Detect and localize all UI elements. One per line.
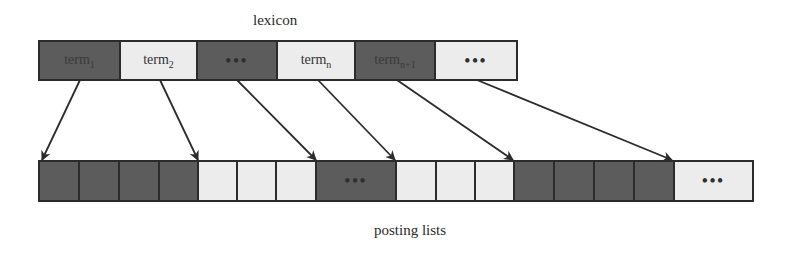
arrow-icon bbox=[477, 80, 672, 160]
arrow-icon bbox=[397, 80, 513, 160]
arrow-icon bbox=[42, 80, 80, 160]
arrow-icon bbox=[160, 80, 198, 160]
arrow-icon bbox=[237, 80, 316, 160]
posting-lists-label: posting lists bbox=[374, 222, 446, 239]
arrow-icon bbox=[318, 80, 395, 160]
pointer-arrows bbox=[0, 0, 791, 257]
